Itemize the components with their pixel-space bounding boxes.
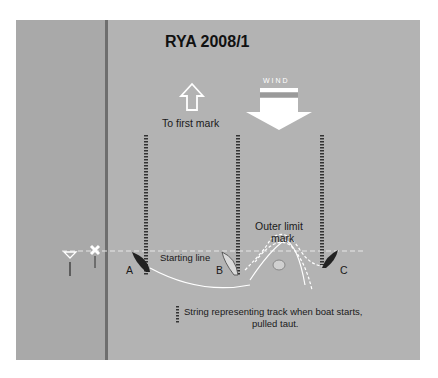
legend-line1: String representing track when boat star… [184,306,362,317]
boat-b-icon [222,252,238,275]
pin-cross-icon [91,246,99,268]
first-mark-arrow-icon [181,84,203,110]
boat-c-icon [322,250,338,268]
outer-limit-label: Outer limit [255,220,303,232]
outer-limit-mark-icon [273,260,285,270]
starting-line-label: Starting line [160,252,210,263]
diagram-graphics [0,0,438,378]
legend-string-icon [176,305,179,323]
wind-arrow-icon [246,88,312,130]
left-arrow-icon [64,252,76,276]
wind-label: WIND [263,77,290,84]
first-mark-label: To first mark [162,117,219,129]
boat-c-label: C [340,264,348,276]
outer-limit-label-2: mark [271,232,294,244]
boat-a-label: A [126,264,133,276]
boat-b-label: B [216,264,223,276]
diagram-title: RYA 2008/1 [165,33,250,51]
legend-line2: pulled taut. [252,318,298,329]
